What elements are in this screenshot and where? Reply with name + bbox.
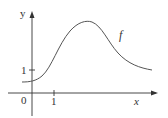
x-axis-label: x (134, 96, 139, 107)
y-axis-arrow-icon (30, 11, 35, 18)
y-axis-label: y (20, 8, 26, 19)
y-tick-label-1: 1 (21, 65, 27, 76)
curve-label-f: f (119, 30, 122, 41)
x-tick-label-1: 1 (51, 96, 57, 107)
function-graph: y x 0 1 1 f (0, 0, 168, 118)
curve-f (22, 21, 152, 82)
origin-label: 0 (21, 95, 27, 106)
x-axis-arrow-icon (151, 91, 158, 96)
